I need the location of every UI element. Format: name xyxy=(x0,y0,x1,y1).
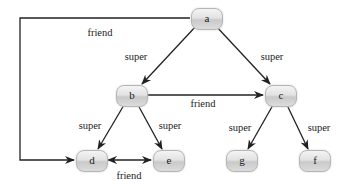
node-e[interactable]: e xyxy=(153,150,185,172)
edge-a-b xyxy=(142,25,197,84)
edge-c-f xyxy=(287,105,308,149)
edge-label-a-b: super xyxy=(125,51,148,62)
node-g[interactable]: g xyxy=(226,150,258,172)
node-a[interactable]: a xyxy=(191,8,223,30)
edge-label-c-f: super xyxy=(308,122,331,133)
edge-b-d xyxy=(98,105,124,149)
node-b[interactable]: b xyxy=(116,85,148,107)
node-d[interactable]: d xyxy=(76,150,108,172)
edge-a-d xyxy=(20,18,190,160)
edge-label-c-g: super xyxy=(229,122,252,133)
edge-label-d-e: friend xyxy=(116,170,141,181)
edge-label-b-e: super xyxy=(159,120,182,131)
node-c[interactable]: c xyxy=(265,85,297,107)
edge-c-g xyxy=(248,105,273,149)
edge-label-b-c: friend xyxy=(190,98,215,109)
node-f[interactable]: f xyxy=(299,150,331,172)
edge-label-b-d: super xyxy=(79,120,102,131)
edge-label-a-d: friend xyxy=(87,27,112,38)
edge-label-a-c: super xyxy=(261,51,284,62)
